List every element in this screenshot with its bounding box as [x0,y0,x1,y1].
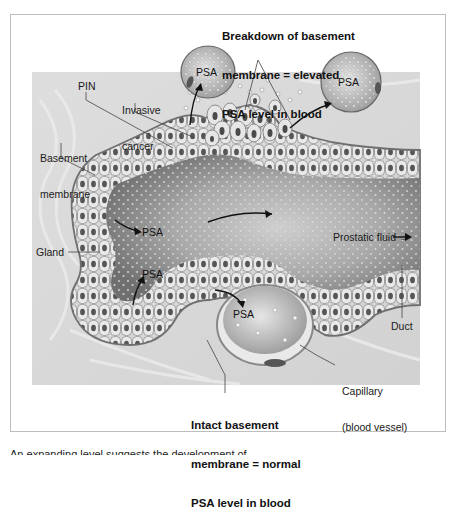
psa-label-capillary-top-right: PSA [338,76,359,88]
top-callout: Breakdown of basement membrane = elevate… [222,4,355,134]
capillary-bottom [217,285,313,367]
psa-label-capillary-top-left: PSA [196,66,217,78]
label-capillary: Capillary (blood vessel) [342,361,407,445]
psa-label-capillary-bottom: PSA [233,308,254,320]
top-callout-line2: membrane = elevated [222,69,355,82]
label-prostatic-fluid: Prostatic fluid → [333,231,409,243]
top-callout-line3: PSA level in blood [222,108,355,121]
label-duct: Duct [391,320,413,332]
label-basement-membrane: Basement membrane [40,128,90,212]
label-invasive-cancer: Invasive cancer [122,80,161,164]
top-callout-line1: Breakdown of basement [222,30,355,43]
bottom-callout-line2: membrane = normal [191,458,301,471]
psa-label-lumen-left: PSA [142,226,163,238]
bottom-callout-line1: Intact basement [191,419,301,432]
label-gland: Gland [36,246,64,258]
bottom-callout-line3: PSA level in blood [191,497,301,510]
label-pin: PIN [78,80,96,92]
psa-label-lumen-lower: PSA [142,268,163,280]
figure-caption-cutoff: An expanding level suggests the developm… [10,447,256,455]
